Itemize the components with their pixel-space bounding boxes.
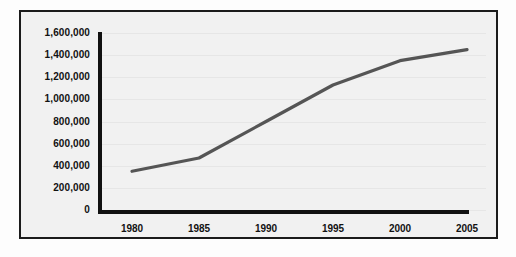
chart-page: 1,600,000 1,400,000 1,200,000 1,000,000 … [0, 0, 516, 257]
series-polyline [132, 50, 467, 172]
data-series-line [21, 12, 500, 241]
chart-frame: 1,600,000 1,400,000 1,200,000 1,000,000 … [19, 10, 498, 239]
